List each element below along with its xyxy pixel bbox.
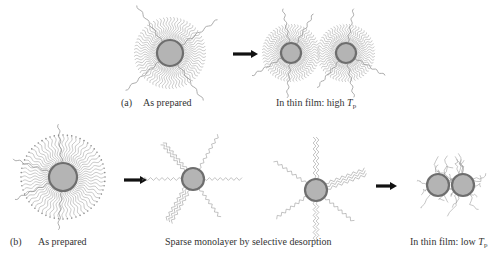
ligand-end-group (21, 167, 23, 169)
nanoparticle-core (305, 179, 327, 201)
short-ligand (78, 176, 104, 178)
ligand-chain (313, 137, 316, 179)
ligand-end-group (67, 134, 69, 136)
ligand-chain (199, 188, 221, 217)
short-ligand (353, 30, 364, 44)
short-ligand (138, 59, 157, 70)
short-ligand (134, 53, 156, 57)
short-ligand (323, 35, 337, 46)
short-ligand (166, 17, 170, 39)
ligand-end-group (49, 216, 51, 218)
collapsed-ligand (421, 189, 428, 195)
long-ligand (297, 14, 314, 43)
panel-b-arrow-1 (124, 176, 147, 184)
ligand-end-group (67, 218, 69, 220)
panel-b-sparse-particle-2 (273, 137, 366, 241)
ligand-end-group (101, 193, 103, 195)
ligand-end-group (103, 167, 105, 169)
short-ligand (150, 23, 162, 41)
collapsed-ligand (472, 173, 485, 179)
ligand-end-group (34, 207, 36, 209)
ligand-end-group (101, 159, 103, 161)
ligand-end-group (104, 172, 106, 174)
collapsed-ligand (470, 194, 479, 210)
ligand-end-group (28, 201, 30, 203)
ligand-end-group (58, 218, 60, 220)
ligand-chain (277, 196, 307, 219)
short-ligand (24, 164, 49, 172)
ligand-end-group (31, 148, 33, 150)
short-ligand (68, 138, 76, 163)
short-ligand (140, 61, 158, 73)
ligand-end-group (79, 215, 81, 217)
panel-b-caption-as-prepared: As prepared (38, 236, 87, 247)
panel-b-marker: (b) (10, 236, 22, 247)
ligand-end-group (102, 163, 104, 165)
caption-text: In thin film: low (410, 236, 478, 247)
short-ligand (182, 36, 201, 47)
long-ligand (126, 62, 160, 90)
panel-b-thin-film-particle-pair (417, 153, 486, 216)
ligand-end-group (90, 207, 92, 209)
ligand-end-group (49, 136, 51, 138)
short-ligand (136, 42, 157, 49)
tp-subscript: p (484, 241, 488, 249)
short-ligand (178, 65, 190, 83)
panel-b-arrow-2 (376, 182, 397, 190)
ligand-end-group (99, 155, 101, 157)
short-ligand (22, 178, 48, 182)
short-ligand (22, 176, 48, 178)
ligand-end-group (87, 210, 89, 212)
ligand-end-group (26, 155, 28, 157)
ligand-end-group (20, 181, 22, 183)
ligand-end-group (83, 213, 85, 215)
ligand-end-group (93, 204, 95, 206)
panel-a-as-prepared-particle (126, 5, 218, 100)
ligand-end-group (62, 218, 64, 220)
short-ligand (75, 153, 96, 168)
short-ligand (170, 67, 174, 89)
short-ligand (39, 144, 54, 165)
ligand-end-group (93, 148, 95, 150)
ligand-chain (161, 145, 185, 172)
ligand-end-group (83, 140, 85, 142)
panel-b-as-prepared-particle (13, 124, 106, 230)
arrow-head (140, 176, 147, 184)
ligand-end-group (41, 140, 43, 142)
ligand-chain (316, 201, 319, 241)
ligand-end-group (24, 159, 26, 161)
short-ligand (355, 60, 369, 71)
short-ligand (62, 136, 64, 162)
ligand-chain (313, 201, 316, 241)
ligand-end-group (104, 181, 106, 183)
nanoparticle-core (336, 43, 356, 63)
ligand-end-group (22, 189, 24, 191)
ligand-end-group (104, 176, 106, 178)
ligand-end-group (90, 145, 92, 147)
short-ligand (159, 66, 166, 87)
short-ligand (50, 191, 58, 216)
nanoparticle-core (49, 163, 77, 191)
long-ligand (356, 59, 385, 76)
collapsed-ligand (421, 194, 431, 208)
short-ligand (64, 192, 68, 218)
ligand-chain (324, 197, 354, 221)
ligand-end-group (38, 210, 40, 212)
short-ligand (153, 21, 164, 40)
ligand-chain (166, 187, 185, 221)
tp-subscript: p (353, 102, 357, 110)
ligand-chain (163, 143, 187, 170)
ligand-end-group (45, 215, 47, 217)
ligand-end-group (24, 193, 26, 195)
ligand-end-group (20, 176, 22, 178)
ligand-chain (169, 189, 188, 223)
ligand-chain (326, 171, 365, 187)
ligand-chain (316, 137, 319, 179)
ligand-end-group (99, 197, 101, 199)
ligand-end-group (102, 189, 104, 191)
panel-b-sparse-particle-1 (142, 134, 242, 224)
short-ligand (174, 19, 181, 40)
ligand-chain (142, 178, 182, 181)
nanoparticle-core (182, 168, 204, 190)
ligand-end-group (41, 213, 43, 215)
